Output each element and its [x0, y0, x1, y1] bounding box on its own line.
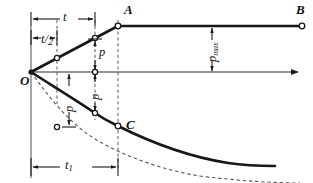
marker-axis-t	[92, 69, 97, 74]
dim-p-upper-label: p	[99, 46, 105, 59]
dim-t1-label: t1	[65, 159, 73, 173]
figure-drawing	[0, 0, 313, 183]
dim-pmax-subscript: max	[211, 42, 220, 55]
marker-upper-t-half	[54, 55, 59, 60]
figure-container: O A B C t t/2 t1 p p p pmax	[0, 0, 313, 183]
marker-point-c	[115, 123, 121, 129]
dim-p-lower-right-label: p	[89, 94, 102, 100]
dim-pmax-label: pmax	[206, 42, 220, 62]
point-b-label: B	[296, 3, 305, 16]
dim-pmax-base: p	[205, 56, 219, 62]
marker-lower-t-half	[54, 124, 59, 129]
marker-upper-t	[92, 35, 97, 40]
dim-t-label: t	[63, 11, 66, 24]
upper-line-oab	[31, 26, 302, 72]
dim-t1-subscript: 1	[68, 163, 72, 173]
marker-point-a	[115, 23, 121, 29]
lower-curve-oc	[31, 72, 275, 166]
dim-p-lower-left-label: p	[63, 106, 76, 112]
point-a-label: A	[124, 3, 133, 16]
marker-point-b	[299, 23, 305, 29]
dim-t-half-label: t/2	[41, 30, 53, 47]
marker-lower-t	[92, 110, 97, 115]
dim-t1	[31, 158, 118, 176]
dim-t-half-denominator: 2	[48, 36, 53, 47]
point-c-label: C	[126, 118, 135, 131]
origin-label: O	[20, 74, 29, 87]
